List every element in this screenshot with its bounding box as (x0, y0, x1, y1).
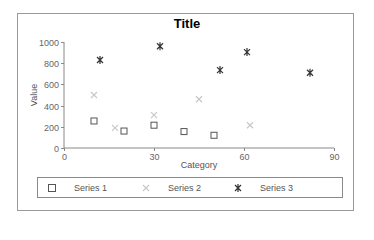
x-marker-icon (112, 125, 118, 131)
x-tick-label: 90 (329, 152, 339, 162)
x-axis-title: Category (181, 160, 218, 170)
legend: Series 1 Series 2 Series 3 (37, 177, 343, 198)
square-marker-icon (181, 129, 187, 135)
square-marker-icon (91, 118, 97, 124)
legend-item-series-1: Series 1 (46, 181, 107, 195)
x-tick-label: 60 (239, 152, 249, 162)
asterisk-marker-icon (244, 48, 250, 56)
x-marker-icon (151, 112, 157, 118)
x-marker-icon (247, 122, 253, 128)
y-tick-label: 400 (44, 102, 59, 112)
y-tick-label: 200 (44, 123, 59, 133)
y-tick-label: 600 (44, 80, 59, 90)
x-tick-label: 30 (149, 152, 159, 162)
square-marker-icon (46, 182, 58, 194)
square-marker-icon (211, 132, 217, 138)
square-marker-icon (121, 128, 127, 134)
square-marker-icon (151, 122, 157, 128)
legend-label: Series 1 (74, 183, 107, 193)
asterisk-marker-icon (157, 42, 163, 50)
x-tick-label: 0 (62, 152, 67, 162)
y-axis-title: Value (29, 84, 39, 106)
legend-item-series-2: Series 2 (140, 181, 201, 195)
asterisk-marker-icon (217, 66, 223, 74)
y-tick-label: 1000 (39, 38, 59, 48)
y-tick-label: 0 (54, 144, 59, 154)
y-tick-label: 800 (44, 59, 59, 69)
legend-item-series-3: Series 3 (232, 181, 293, 195)
asterisk-marker-icon (97, 56, 103, 64)
legend-label: Series 3 (260, 183, 293, 193)
asterisk-marker-icon (232, 182, 244, 194)
asterisk-marker-icon (307, 69, 313, 77)
x-marker-icon (196, 96, 202, 102)
x-marker-icon (140, 182, 152, 194)
x-marker-icon (91, 92, 97, 98)
legend-label: Series 2 (168, 183, 201, 193)
